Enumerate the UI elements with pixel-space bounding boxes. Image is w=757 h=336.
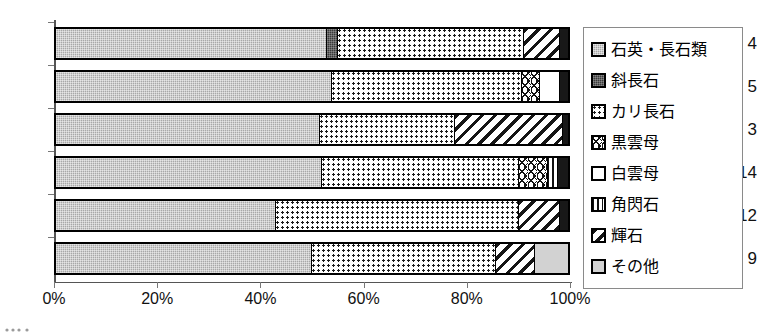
legend-item: カリ長石	[591, 96, 737, 127]
bar-segment	[560, 201, 568, 230]
stacked-bar-chart: 45314129 0%20%40%60%80%100% 石英・長石類斜長石カリ長…	[0, 0, 757, 336]
pyroxene-swatch	[591, 228, 606, 243]
quartz-feldspar-swatch	[591, 42, 606, 57]
bar-segment	[563, 115, 568, 144]
bar-segment	[322, 158, 519, 187]
legend-item-label: 白雲母	[611, 166, 659, 182]
other-swatch	[591, 259, 606, 274]
legend-item-label: 角閃石	[611, 197, 659, 213]
x-axis-tick	[467, 282, 468, 288]
legend-item-label: カリ長石	[611, 104, 675, 120]
stacked-bar-3	[54, 113, 570, 146]
x-axis-label-100pct: 100%	[550, 290, 591, 308]
x-axis-label-20pct: 20%	[141, 290, 173, 308]
chart-legend: 石英・長石類斜長石カリ長石黒雲母白雲母角閃石輝石その他	[583, 27, 743, 289]
bar-segment	[519, 201, 560, 230]
x-axis-line	[54, 282, 572, 283]
plagioclase-swatch	[591, 73, 606, 88]
bar-segment	[56, 72, 332, 101]
legend-item: 角閃石	[591, 189, 737, 220]
bar-segment	[332, 72, 521, 101]
bar-segment	[56, 244, 312, 273]
stacked-bar-9	[54, 242, 570, 275]
bar-segment	[535, 244, 568, 273]
bar-segment	[327, 29, 337, 58]
x-axis-label-0pct: 0%	[42, 290, 65, 308]
bar-segment	[56, 201, 276, 230]
x-axis-tick	[260, 282, 261, 288]
k-feldspar-swatch	[591, 104, 606, 119]
bar-row	[54, 199, 570, 232]
bar-segment	[558, 158, 568, 187]
bar-segment	[312, 244, 496, 273]
x-axis-tick	[157, 282, 158, 288]
page-artifact-mark	[4, 324, 38, 334]
bar-segment	[56, 115, 320, 144]
bar-segment	[56, 29, 327, 58]
stacked-bar-14	[54, 156, 570, 189]
bar-row	[54, 242, 570, 275]
bar-segment	[522, 72, 540, 101]
bar-segment	[320, 115, 456, 144]
x-axis-label-40pct: 40%	[244, 290, 276, 308]
biotite-swatch	[591, 135, 606, 150]
bar-segment	[560, 72, 568, 101]
legend-item: その他	[591, 251, 737, 282]
bar-segment	[540, 72, 560, 101]
x-axis-label-80pct: 80%	[451, 290, 483, 308]
legend-item-label: その他	[611, 259, 659, 275]
x-axis-tick	[364, 282, 365, 288]
x-axis-tick	[54, 282, 55, 288]
bar-segment	[519, 158, 547, 187]
stacked-bar-5	[54, 70, 570, 103]
bar-row	[54, 156, 570, 189]
x-axis-tick	[570, 282, 571, 288]
hornblende-swatch	[591, 197, 606, 212]
legend-item-label: 石英・長石類	[611, 42, 707, 58]
bar-segment	[455, 115, 563, 144]
bar-segment	[338, 29, 525, 58]
legend-item: 石英・長石類	[591, 34, 737, 65]
stacked-bar-12	[54, 199, 570, 232]
legend-item: 斜長石	[591, 65, 737, 96]
legend-item-label: 斜長石	[611, 73, 659, 89]
bar-row	[54, 113, 570, 146]
bar-segment	[276, 201, 519, 230]
legend-item-label: 輝石	[611, 228, 643, 244]
bar-segment	[56, 158, 322, 187]
legend-item: 黒雲母	[591, 127, 737, 158]
bar-row	[54, 27, 570, 60]
legend-item: 輝石	[591, 220, 737, 251]
x-axis-label-60pct: 60%	[348, 290, 380, 308]
legend-item-label: 黒雲母	[611, 135, 659, 151]
legend-item: 白雲母	[591, 158, 737, 189]
bar-segment	[548, 158, 558, 187]
bar-segment	[496, 244, 534, 273]
bar-segment	[560, 29, 568, 58]
bar-row	[54, 70, 570, 103]
bar-segment	[524, 29, 560, 58]
plot-area	[54, 22, 570, 280]
muscovite-swatch	[591, 166, 606, 181]
stacked-bar-4	[54, 27, 570, 60]
